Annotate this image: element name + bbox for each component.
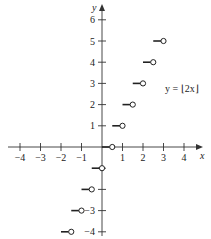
y-tick-label: −4 [84,226,95,237]
step-segment [71,208,84,213]
y-tick-label: −3 [84,205,95,216]
step-segment [112,123,125,128]
open-dot-icon [69,229,74,234]
y-tick-label: 1 [90,120,95,131]
ticks: −4−3−2−11234−4−3123456 [15,14,187,237]
equation-label: y = ⌊2x⌋ [165,83,199,94]
x-tick-label: −2 [56,152,67,163]
x-tick-label: 1 [120,152,125,163]
y-tick-label: 4 [90,57,95,68]
x-tick-label: 3 [161,152,166,163]
open-dot-icon [161,38,166,43]
y-tick-label: 5 [90,36,95,47]
step-segment [102,144,115,149]
step-segment [133,81,146,86]
y-tick-label: 2 [90,99,95,110]
y-tick-label: 3 [90,78,95,89]
x-axis-label: x [199,150,205,161]
y-axis-arrow-icon [99,4,105,11]
open-dot-icon [89,187,94,192]
open-dot-icon [140,81,145,86]
open-dot-icon [151,60,156,65]
x-tick-label: −3 [35,152,46,163]
open-dot-icon [120,123,125,128]
y-tick-label: 6 [90,14,95,25]
step-segment [143,60,156,65]
x-tick-label: 2 [141,152,146,163]
y-axis-label: y [91,2,97,13]
axes [8,4,203,236]
open-dot-icon [110,144,115,149]
step-segment [61,229,74,234]
floor-function-graph: −4−3−2−11234−4−3123456 x y y = ⌊2x⌋ [0,0,211,239]
x-tick-label: 4 [182,152,187,163]
open-dot-icon [130,102,135,107]
step-segment [82,187,95,192]
open-dot-icon [79,208,84,213]
step-segment [153,38,166,43]
x-tick-label: −1 [76,152,87,163]
step-segment [92,166,105,171]
step-segment [123,102,136,107]
open-dot-icon [99,166,104,171]
step-segments [61,38,166,234]
x-tick-label: −4 [15,152,26,163]
